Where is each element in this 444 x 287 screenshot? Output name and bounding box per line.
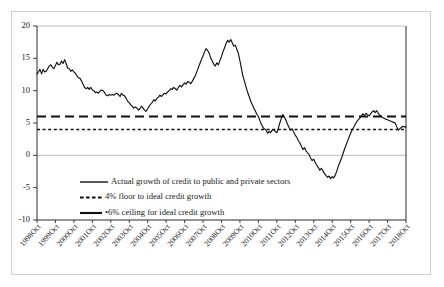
legend-label-3: •6% ceiling for ideal credit growth	[105, 207, 225, 217]
ytick-label: -5	[23, 182, 30, 192]
legend-label-1: Actual growth of credit to public and pr…	[111, 176, 291, 186]
chart-canvas: 20151050-5-101998Oct1999Oct2000Oct2001Oc…	[0, 0, 444, 287]
ytick-label: 0	[26, 149, 30, 159]
chart-root: 20151050-5-101998Oct1999Oct2000Oct2001Oc…	[0, 0, 444, 287]
actual-credit-growth-line	[37, 40, 406, 179]
ytick-label: 5	[26, 117, 30, 127]
ytick-label: -10	[19, 214, 30, 224]
xtick-label: 2018Oct	[387, 222, 412, 249]
legend-label-2: 4% floor to ideal credit growth	[105, 191, 212, 201]
ytick-label: 15	[22, 52, 31, 62]
ytick-label: 20	[22, 20, 31, 30]
ytick-label: 10	[22, 85, 31, 95]
